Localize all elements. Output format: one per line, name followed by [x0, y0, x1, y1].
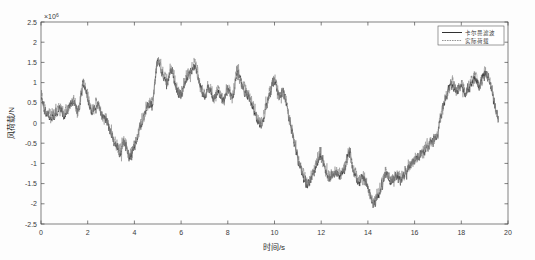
y-axis-label: 风荷载/N [6, 107, 16, 139]
x-tick-label: 4 [132, 229, 136, 236]
wind-load-chart: 02468101214161820 2.521.510.50-0.5-1-1.5… [0, 0, 535, 260]
x-tick-label: 16 [411, 229, 419, 236]
figure-container: 02468101214161820 2.521.510.50-0.5-1-1.5… [0, 0, 535, 260]
x-tick-label: 2 [86, 229, 90, 236]
x-tick-label: 18 [457, 229, 465, 236]
y-tick-label: 0.5 [27, 99, 37, 106]
legend-label-kalman[interactable]: 卡尔曼滤波 [465, 29, 495, 37]
legend-label-measured[interactable]: 实际荷载 [465, 37, 489, 45]
y-tick-label: -1.5 [25, 180, 37, 187]
x-tick-label: 10 [271, 229, 279, 236]
x-tick-label: 14 [364, 229, 372, 236]
y-tick-label: -1 [31, 160, 37, 167]
x-tick-label: 8 [226, 229, 230, 236]
x-tick-label: 0 [39, 229, 43, 236]
x-tick-label: 12 [317, 229, 325, 236]
y-axis-exponent-power: 6 [56, 12, 59, 18]
x-tick-label: 6 [179, 229, 183, 236]
caption-bleed [0, 248, 535, 260]
y-tick-label: 0 [33, 120, 37, 127]
y-tick-label: 1.5 [27, 59, 37, 66]
x-tick-label: 20 [504, 229, 512, 236]
y-tick-label: -2 [31, 200, 37, 207]
y-tick-label: -0.5 [25, 140, 37, 147]
y-tick-label: 2.5 [27, 19, 37, 26]
y-tick-label: 2 [33, 39, 37, 46]
y-tick-label: -2.5 [25, 221, 37, 228]
y-tick-label: 1 [33, 79, 37, 86]
legend[interactable]: 卡尔曼滤波实际荷载 [438, 26, 504, 45]
